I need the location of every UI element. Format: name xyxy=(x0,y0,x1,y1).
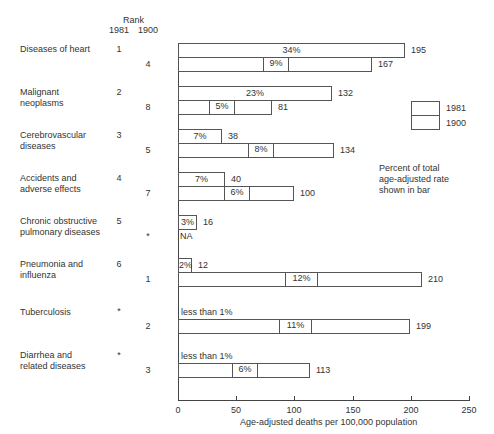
rank-1981: 4 xyxy=(112,173,126,183)
bar-value-1900: 210 xyxy=(428,272,443,287)
bar-value-1900: 199 xyxy=(416,319,431,334)
bar-percent-1900: NA xyxy=(180,229,193,244)
rank-1900: 4 xyxy=(141,59,155,69)
bar-value-1981: 12 xyxy=(198,258,208,273)
bar-percent-1981: 2% xyxy=(179,259,191,272)
rank-1981-header: 1981 xyxy=(109,25,129,35)
x-tick-label: 250 xyxy=(454,405,484,415)
bar-1981: 23% xyxy=(178,86,332,101)
legend-label-1900: 1900 xyxy=(446,118,466,128)
bar-1900: 9% xyxy=(178,57,372,72)
bar-1981: 7% xyxy=(178,129,222,144)
bar-value-1981: 40 xyxy=(231,172,241,187)
bar-percent-1981: 34% xyxy=(179,44,404,57)
bar-value-1981: 132 xyxy=(338,86,353,101)
rank-1981: 6 xyxy=(112,259,126,269)
bar-percent-1900: 6% xyxy=(224,186,250,201)
bar-percent-1981: 23% xyxy=(179,87,331,100)
x-axis-line xyxy=(178,400,470,401)
x-tick-label: 0 xyxy=(163,405,193,415)
category-label: Diseases of heart xyxy=(20,44,90,55)
x-axis-tick xyxy=(236,396,237,400)
bar-percent-1900: 5% xyxy=(209,100,235,115)
x-axis-tick xyxy=(353,396,354,400)
bar-percent-1981: 7% xyxy=(179,130,221,143)
bar-1900: 8% xyxy=(178,143,334,158)
legend-label-1981: 1981 xyxy=(446,103,466,113)
rank-1981: * xyxy=(112,350,126,360)
rank-1900: 2 xyxy=(141,321,155,331)
bar-percent-1981: less than 1% xyxy=(181,305,233,320)
rank-1981: 5 xyxy=(112,216,126,226)
bar-value-1900: 113 xyxy=(316,363,330,378)
bar-1900: 12% xyxy=(178,272,422,287)
legend-swatch-1900 xyxy=(411,115,440,130)
category-label: Accidents and adverse effects xyxy=(20,173,81,195)
bar-percent-1900: 12% xyxy=(285,272,318,287)
bar-value-1900: 134 xyxy=(340,143,355,158)
rank-1981: 3 xyxy=(112,130,126,140)
category-label: Tuberculosis xyxy=(20,307,71,318)
rank-1900: 3 xyxy=(141,365,155,375)
x-axis-tick xyxy=(178,396,179,400)
legend-swatch-1981 xyxy=(411,101,440,116)
legend-note: Percent of total age-adjusted rate shown… xyxy=(379,163,449,196)
x-axis-tick xyxy=(294,396,295,400)
category-label: Diarrhea and related diseases xyxy=(20,350,86,372)
x-tick-label: 150 xyxy=(338,405,368,415)
x-tick-label: 200 xyxy=(396,405,426,415)
rank-1900: * xyxy=(141,231,155,241)
rank-1900: 8 xyxy=(141,102,155,112)
bar-percent-1900: 8% xyxy=(248,143,274,158)
x-axis-label: Age-adjusted deaths per 100,000 populati… xyxy=(240,417,417,427)
rank-1900: 1 xyxy=(141,274,155,284)
x-tick-label: 100 xyxy=(279,405,309,415)
bar-value-1900: 167 xyxy=(378,57,393,72)
category-label: Pneumonia and influenza xyxy=(20,259,83,281)
rank-1900: 5 xyxy=(141,145,155,155)
bar-percent-1981: less than 1% xyxy=(181,349,233,364)
x-axis-tick xyxy=(469,396,470,400)
bar-1900: 11% xyxy=(178,319,410,334)
bar-1981: 3% xyxy=(178,215,197,230)
rank-header: Rank xyxy=(123,15,144,25)
bar-percent-1981: 7% xyxy=(179,173,224,186)
category-label: Cerebrovascular diseases xyxy=(20,130,86,152)
bar-percent-1981: 3% xyxy=(179,216,196,229)
bar-percent-1900: 6% xyxy=(232,363,258,378)
bar-1981: 34% xyxy=(178,43,405,58)
bar-1981: 2% xyxy=(178,258,192,273)
category-label: Chronic obstructive pulmonary diseases xyxy=(20,216,100,238)
bar-value-1981: 16 xyxy=(203,215,213,230)
rank-1900-header: 1900 xyxy=(138,25,158,35)
rank-1981: 2 xyxy=(112,87,126,97)
category-label: Malignant neoplasms xyxy=(20,87,64,109)
bar-value-1900: 100 xyxy=(300,186,315,201)
bar-value-1981: 195 xyxy=(411,43,426,58)
bar-1900: 5% xyxy=(178,100,272,115)
bar-value-1981: 38 xyxy=(228,129,238,144)
rank-1981: * xyxy=(112,306,126,316)
bar-1900: 6% xyxy=(178,186,294,201)
bar-1981: 7% xyxy=(178,172,225,187)
x-tick-label: 50 xyxy=(221,405,251,415)
rank-1900: 7 xyxy=(141,188,155,198)
bar-percent-1900: 11% xyxy=(279,319,312,334)
x-axis-tick xyxy=(411,396,412,400)
bar-percent-1900: 9% xyxy=(263,57,289,72)
bar-value-1900: 81 xyxy=(278,100,288,115)
rank-1981: 1 xyxy=(112,44,126,54)
bar-1900: 6% xyxy=(178,363,310,378)
